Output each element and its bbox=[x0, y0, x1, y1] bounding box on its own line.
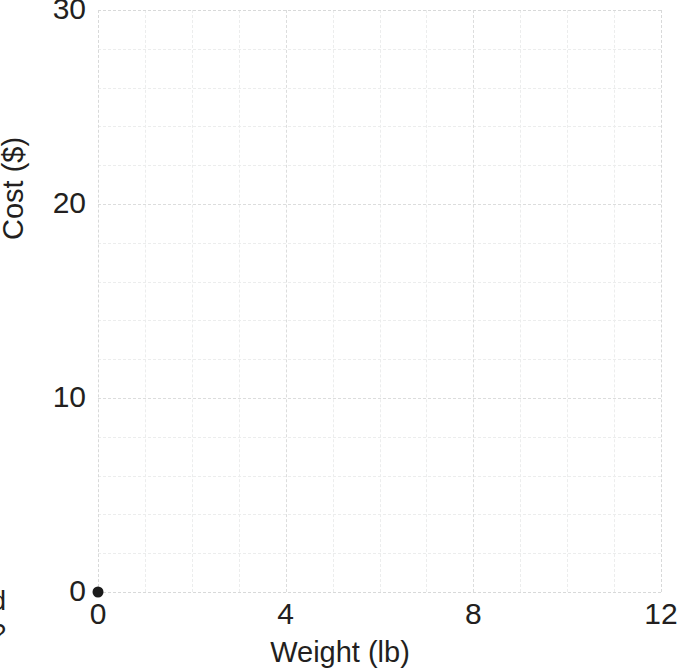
gridline-y-minor bbox=[98, 359, 661, 360]
data-points-layer bbox=[98, 10, 661, 592]
gridline-x-minor bbox=[380, 10, 381, 592]
gridline-y-major bbox=[98, 204, 661, 205]
gridline-x-major bbox=[98, 10, 99, 592]
gridline-y-minor bbox=[98, 514, 661, 515]
gridline-y-major bbox=[98, 10, 661, 11]
gridline-x-minor bbox=[614, 10, 615, 592]
x-tick-label: 4 bbox=[236, 599, 336, 629]
plot-area bbox=[98, 10, 661, 592]
gridline-y-minor bbox=[98, 88, 661, 89]
gridline-x-minor bbox=[333, 10, 334, 592]
gridline-y-minor bbox=[98, 476, 661, 477]
grid-layer bbox=[98, 10, 661, 592]
gridline-x-major bbox=[661, 10, 662, 592]
x-tick-label: 0 bbox=[48, 599, 148, 629]
gridline-x-minor bbox=[426, 10, 427, 592]
x-tick-label: 8 bbox=[423, 599, 523, 629]
gridline-y-minor bbox=[98, 243, 661, 244]
x-axis-title: Weight (lb) bbox=[0, 636, 680, 668]
data-point[interactable] bbox=[93, 587, 104, 598]
gridline-x-minor bbox=[192, 10, 193, 592]
gridline-y-major bbox=[98, 398, 661, 399]
y-tick-label: 20 bbox=[18, 188, 86, 218]
x-tick-label: 12 bbox=[611, 599, 680, 629]
gridline-y-minor bbox=[98, 49, 661, 50]
gridline-x-minor bbox=[567, 10, 568, 592]
gridline-x-minor bbox=[520, 10, 521, 592]
y-tick-label: 30 bbox=[18, 0, 86, 24]
gridline-y-minor bbox=[98, 165, 661, 166]
gridline-y-minor bbox=[98, 282, 661, 283]
gridline-y-minor bbox=[98, 553, 661, 554]
gridline-x-major bbox=[286, 10, 287, 592]
gridline-y-minor bbox=[98, 320, 661, 321]
gridline-y-minor bbox=[98, 126, 661, 127]
gridline-y-major bbox=[98, 592, 661, 593]
gridline-x-major bbox=[473, 10, 474, 592]
y-tick-label: 10 bbox=[18, 382, 86, 412]
y-axis-title: Cost ($) bbox=[0, 100, 28, 240]
gridline-x-minor bbox=[145, 10, 146, 592]
gridline-x-minor bbox=[239, 10, 240, 592]
gridline-y-minor bbox=[98, 437, 661, 438]
